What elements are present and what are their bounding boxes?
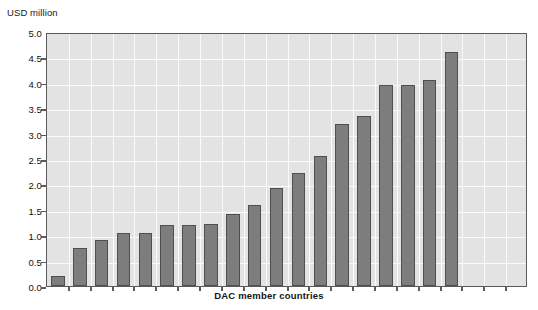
y-axis-tick-label: 4.5 [2,53,42,64]
x-axis-title: DAC member countries [0,290,538,301]
bar [160,225,174,286]
bar [423,80,437,286]
y-axis-tick-label: 1.0 [2,231,42,242]
bar [335,124,349,286]
bar [204,224,218,286]
bar [226,214,240,286]
y-axis-tick-label: 2.0 [2,180,42,191]
bar [357,116,371,286]
bar [401,85,415,286]
y-axis-tick-mark [41,287,46,289]
y-axis-tick-label: 3.0 [2,129,42,140]
bar-chart: USD million 5.04.54.03.53.02.52.01.51.00… [0,0,538,310]
bar [379,85,393,286]
bar [139,233,153,286]
bar [182,225,196,286]
bar [445,52,459,286]
y-axis-tick-label: 2.5 [2,155,42,166]
bar [248,205,262,286]
y-axis-tick-label: 0.5 [2,256,42,267]
bar [95,240,109,286]
bar [270,188,284,286]
bar [117,233,131,286]
y-axis-unit-label: USD million [7,7,58,18]
y-axis-tick-label: 1.5 [2,205,42,216]
plot-area [46,33,527,287]
bars-layer [47,34,526,286]
bar [51,276,65,286]
y-axis-tick-label: 3.5 [2,104,42,115]
y-axis-tick-label: 4.0 [2,78,42,89]
bar [73,248,87,286]
bar [314,156,328,286]
bar [292,173,306,286]
y-axis-tick-label: 5.0 [2,28,42,39]
